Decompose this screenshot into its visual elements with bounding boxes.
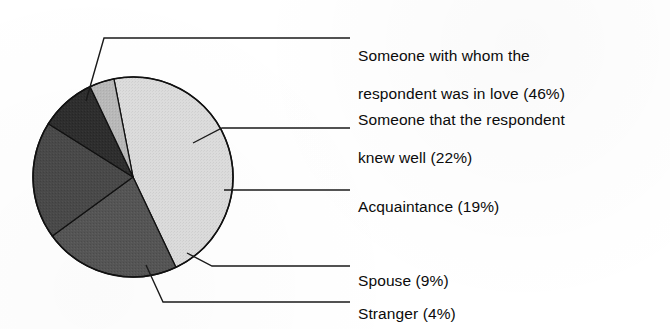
pie-label-stranger: Stranger (4%)	[358, 285, 658, 323]
pie-chart-figure: Someone with whom the respondent was in …	[0, 0, 670, 329]
leader-line-stranger	[146, 265, 350, 302]
pie-label-stranger-line1: Stranger (4%)	[358, 305, 456, 322]
pie-label-love-line1: Someone with whom the	[358, 47, 530, 64]
leader-line-spouse	[187, 253, 350, 266]
pie-label-acquaintance-line1: Acquaintance (19%)	[358, 198, 499, 215]
pie-label-knew-well-line1: Someone that the respondent	[358, 111, 565, 128]
pie-label-knew-well: Someone that the respondent knew well (2…	[358, 91, 658, 186]
pie-label-knew-well-line2: knew well (22%)	[358, 148, 658, 167]
pie-label-acquaintance: Acquaintance (19%)	[358, 178, 658, 216]
